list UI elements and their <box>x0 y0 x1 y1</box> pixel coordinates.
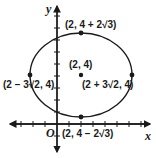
bottom-vertex-label: (2, 4 − 2√3) <box>62 128 113 139</box>
bottom-vertex-point <box>79 115 84 120</box>
ellipse-diagram: y x O (2, 4 + 2√3) (2, 4) (2 − 3√2, 4) (… <box>0 0 156 158</box>
center-label: (2, 4) <box>69 59 92 70</box>
left-vertex-point <box>28 73 33 78</box>
x-axis-label: x <box>144 129 151 143</box>
origin-label: O <box>46 126 55 140</box>
top-vertex-label: (2, 4 + 2√3) <box>65 19 116 30</box>
x-axis <box>10 121 150 127</box>
right-vertex-point <box>130 73 135 78</box>
y-axis <box>54 6 60 152</box>
right-vertex-label: (2 + 3√2, 4) <box>82 79 133 90</box>
center-point <box>79 73 83 77</box>
top-vertex-point <box>79 31 84 36</box>
y-axis-label: y <box>44 2 52 16</box>
left-vertex-label: (2 − 3√2, 4) <box>3 79 54 90</box>
